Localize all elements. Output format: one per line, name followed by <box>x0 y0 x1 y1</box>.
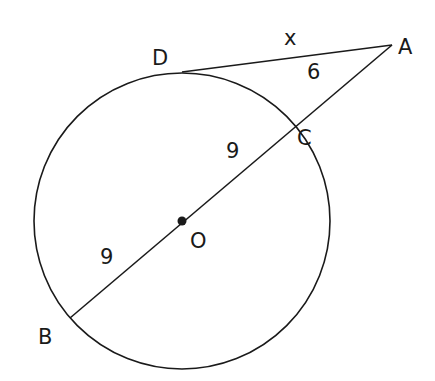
geometry-diagram: D A C O B x 6 9 9 <box>0 0 435 381</box>
segment-label-bo: 9 <box>100 245 113 269</box>
segment-label-da: x <box>284 26 296 50</box>
point-label-c: C <box>297 126 312 150</box>
point-label-o: O <box>190 229 207 253</box>
segment-label-oc: 9 <box>226 139 239 163</box>
segment-label-ac: 6 <box>307 60 320 84</box>
center-point-o <box>178 217 187 226</box>
point-label-d: D <box>152 46 168 70</box>
secant-segment-ab <box>70 45 392 318</box>
point-label-a: A <box>398 35 413 59</box>
point-label-b: B <box>38 325 52 349</box>
